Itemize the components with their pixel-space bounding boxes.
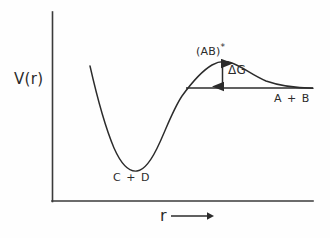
activation-energy-label: ΔG xyxy=(228,64,246,76)
transition-state-text: (AB) xyxy=(196,45,220,58)
y-axis-label: V(r) xyxy=(14,72,43,87)
transition-state-superscript: * xyxy=(220,42,225,52)
potential-energy-figure: V(r) r (AB)* ΔG A + B C + D xyxy=(0,0,330,238)
reactants-label: A + B xyxy=(274,93,310,104)
x-axis-label: r xyxy=(160,208,167,224)
x-axis-label-group: r xyxy=(160,208,215,224)
right-arrow-icon xyxy=(171,211,215,221)
plot-canvas xyxy=(0,0,330,238)
potential-energy-curve xyxy=(90,62,313,171)
transition-state-label: (AB)* xyxy=(196,43,225,57)
products-label: C + D xyxy=(113,172,150,183)
